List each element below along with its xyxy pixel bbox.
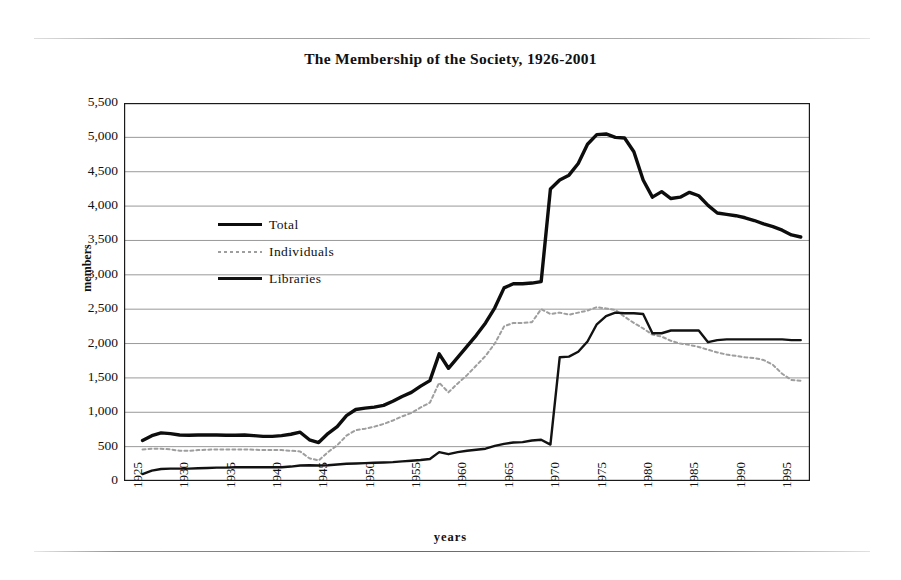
legend-item-total: Total — [218, 211, 398, 238]
series-line-individuals — [143, 307, 801, 460]
x-axis-title: years — [0, 530, 901, 545]
legend-label: Total — [269, 217, 299, 233]
legend-label: Libraries — [269, 271, 321, 287]
legend-swatch-individuals-icon — [218, 246, 262, 258]
chart-plot-area — [124, 103, 810, 481]
legend-swatch-libraries-icon — [218, 273, 262, 285]
legend-item-individuals: Individuals — [218, 238, 398, 265]
chart-svg — [124, 103, 810, 481]
legend-label: Individuals — [269, 244, 334, 260]
chart-frame — [125, 104, 810, 481]
legend-swatch-total-icon — [218, 219, 262, 231]
legend-item-libraries: Libraries — [218, 265, 398, 292]
chart-legend: TotalIndividualsLibraries — [218, 211, 398, 292]
